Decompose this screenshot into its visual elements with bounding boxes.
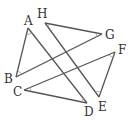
angle-mark-b xyxy=(18,71,23,74)
angle-mark-d xyxy=(82,98,84,102)
label-d: D xyxy=(84,105,94,119)
segment-hg xyxy=(45,23,102,34)
angle-mark-e xyxy=(96,92,101,93)
label-h: H xyxy=(37,7,47,21)
segment-fc xyxy=(24,52,115,90)
label-e: E xyxy=(98,100,107,114)
segment-bg xyxy=(16,34,102,77)
label-f: F xyxy=(118,43,126,57)
label-c: C xyxy=(13,85,22,99)
angle-mark-f xyxy=(109,55,113,58)
label-b: B xyxy=(4,72,13,86)
angle-mark-c xyxy=(30,88,31,92)
angle-mark-h xyxy=(48,24,50,27)
segment-ef xyxy=(99,52,115,97)
segment-ab xyxy=(16,28,28,77)
label-a: A xyxy=(23,14,33,28)
angle-mark-g xyxy=(96,33,97,37)
geometry-diagram: A H G F B C D E xyxy=(0,0,131,126)
label-g: G xyxy=(105,28,115,42)
